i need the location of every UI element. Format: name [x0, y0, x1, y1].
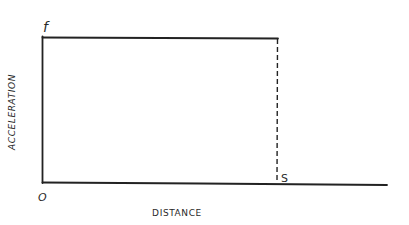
- y-axis-label: ACCELERATION: [7, 74, 17, 151]
- acceleration-distance-diagram: f O S DISTANCE ACCELERATION: [0, 0, 409, 225]
- distance-s-dashed-line: [277, 39, 278, 183]
- top-value-label: f: [43, 19, 50, 35]
- x-axis-label: DISTANCE: [152, 208, 202, 218]
- x-axis-line: [43, 183, 388, 186]
- origin-label: O: [38, 191, 47, 204]
- end-distance-label: S: [281, 172, 288, 185]
- acceleration-level-line: [43, 38, 279, 39]
